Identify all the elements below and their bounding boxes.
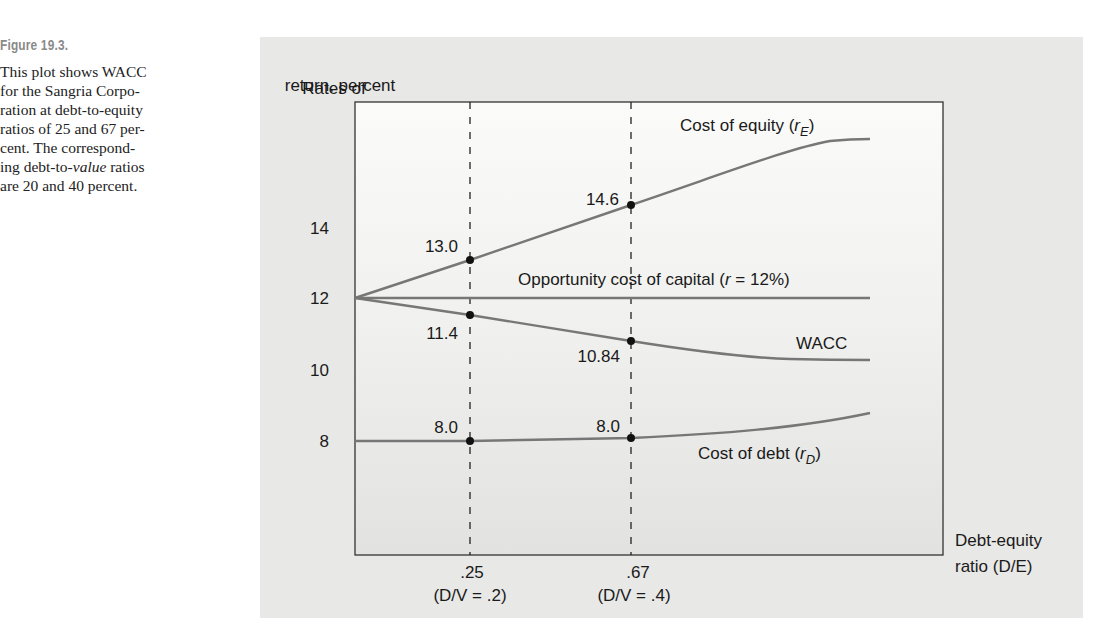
y-tick-10: 10 — [310, 361, 329, 380]
x-sublabel-067: (D/V = .4) — [597, 586, 670, 605]
label-opportunity-cost: Opportunity cost of capital (r = 12%) — [518, 270, 790, 289]
label-subscript: D — [806, 452, 815, 467]
annotation-8-0-b: 8.0 — [596, 417, 620, 436]
label-tail: = 12%) — [731, 270, 790, 289]
x-axis-label-line2: ratio (D/E) — [955, 557, 1032, 576]
annotation-10-84: 10.84 — [577, 347, 620, 366]
annotation-13-0: 13.0 — [425, 237, 458, 256]
point-wacc-025 — [466, 311, 474, 319]
annotation-11-4: 11.4 — [426, 324, 458, 343]
annotation-14-6: 14.6 — [586, 190, 619, 209]
wacc-chart: Rates of 14 12 10 8 13.0 14.6 11.4 10.84… — [0, 0, 1117, 643]
point-equity-025 — [466, 256, 474, 264]
x-axis-label-line1: Debt-equity — [955, 531, 1042, 550]
point-debt-025 — [466, 437, 474, 445]
x-tick-025: .25 — [460, 563, 484, 582]
x-tick-067: .67 — [626, 563, 650, 582]
label-wacc: WACC — [796, 334, 847, 353]
point-wacc-067 — [627, 337, 635, 345]
label-text: Cost of equity ( — [680, 116, 795, 135]
point-equity-067 — [627, 201, 635, 209]
x-sublabel-025: (D/V = .2) — [433, 586, 506, 605]
annotation-8-0-a: 8.0 — [434, 418, 458, 437]
label-subscript: E — [800, 124, 809, 139]
y-tick-12: 12 — [310, 289, 329, 308]
y-tick-14: 14 — [310, 219, 329, 238]
y-axis-label-line2: return, percent — [255, 76, 425, 96]
label-text: Cost of debt ( — [698, 444, 800, 463]
point-debt-067 — [627, 434, 635, 442]
y-tick-8: 8 — [320, 432, 329, 451]
label-text: Opportunity cost of capital ( — [518, 270, 725, 289]
